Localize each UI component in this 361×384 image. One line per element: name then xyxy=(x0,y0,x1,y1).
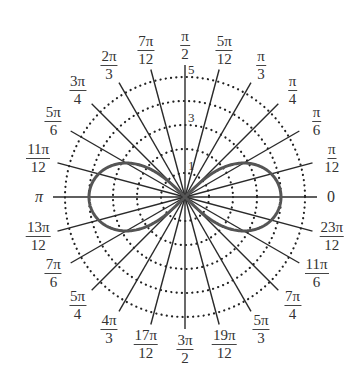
spoke-255 xyxy=(151,197,185,325)
fraction: 5π12 xyxy=(216,34,233,67)
angle-label-225: 5π4 xyxy=(69,288,86,322)
radial-tick-label: 1 xyxy=(188,158,195,174)
numerator: 11π xyxy=(305,257,329,274)
spoke-75 xyxy=(185,70,219,198)
numerator: π xyxy=(312,105,322,122)
numerator: 5π xyxy=(69,289,86,306)
fraction: π12 xyxy=(324,142,339,175)
denominator: 12 xyxy=(324,237,339,253)
numerator: 4π xyxy=(100,313,117,330)
numerator: π xyxy=(180,29,190,46)
fraction: 4π3 xyxy=(100,313,117,346)
fraction: π6 xyxy=(312,105,322,138)
angle-label-240: 4π3 xyxy=(100,312,117,346)
denominator: 12 xyxy=(324,159,339,175)
denominator: 2 xyxy=(181,46,189,62)
denominator: 4 xyxy=(289,306,297,322)
angle-label-150: 5π6 xyxy=(45,104,62,138)
denominator: 6 xyxy=(50,274,58,290)
numerator: 17π xyxy=(133,328,158,345)
numerator: 11π xyxy=(26,142,50,159)
angle-label-285: 19π12 xyxy=(212,327,237,361)
numerator: 7π xyxy=(284,289,301,306)
numerator: 7π xyxy=(137,34,154,51)
fraction: 17π12 xyxy=(133,328,158,361)
radial-tick-label: 5 xyxy=(188,62,195,78)
fraction: π3 xyxy=(256,49,266,82)
angle-label-300: 5π3 xyxy=(252,312,269,346)
spoke-120 xyxy=(119,83,185,197)
angle-label-45: π4 xyxy=(288,73,298,107)
fraction: 3π4 xyxy=(69,74,86,107)
angle-label-30: π6 xyxy=(312,104,322,138)
angle-label-0: 0 xyxy=(327,189,335,205)
fraction: 3π2 xyxy=(176,333,193,366)
angle-label-255: 17π12 xyxy=(133,327,158,361)
angle-label-text: 0 xyxy=(327,188,335,205)
spoke-285 xyxy=(185,197,219,325)
numerator: 2π xyxy=(100,49,117,66)
numerator: 7π xyxy=(45,257,62,274)
fraction: 5π3 xyxy=(252,313,269,346)
spoke-105 xyxy=(151,70,185,198)
fraction: 23π12 xyxy=(320,220,345,253)
denominator: 3 xyxy=(257,66,265,82)
denominator: 6 xyxy=(50,122,58,138)
numerator: 23π xyxy=(320,220,345,237)
denominator: 4 xyxy=(74,91,82,107)
angle-label-165: 11π12 xyxy=(26,141,50,175)
denominator: 12 xyxy=(138,51,153,67)
angle-label-135: 3π4 xyxy=(69,73,86,107)
fraction: 11π6 xyxy=(305,257,329,290)
angle-label-195: 13π12 xyxy=(26,219,51,253)
denominator: 3 xyxy=(257,330,265,346)
angle-label-210: 7π6 xyxy=(45,256,62,290)
spoke-300 xyxy=(185,197,251,311)
denominator: 12 xyxy=(31,159,46,175)
angle-label-270: 3π2 xyxy=(176,332,193,366)
numerator: 3π xyxy=(69,74,86,91)
numerator: 3π xyxy=(176,333,193,350)
angle-label-120: 2π3 xyxy=(100,48,117,82)
fraction: 19π12 xyxy=(212,328,237,361)
fraction: 11π12 xyxy=(26,142,50,175)
angle-label-345: 23π12 xyxy=(320,219,345,253)
denominator: 12 xyxy=(31,237,46,253)
fraction: 13π12 xyxy=(26,220,51,253)
spoke-60 xyxy=(185,83,251,197)
denominator: 12 xyxy=(217,345,232,361)
denominator: 12 xyxy=(217,51,232,67)
angle-label-60: π3 xyxy=(256,48,266,82)
denominator: 12 xyxy=(138,345,153,361)
denominator: 6 xyxy=(313,274,321,290)
denominator: 2 xyxy=(181,350,189,366)
numerator: 5π xyxy=(216,34,233,51)
angle-label-330: 11π6 xyxy=(305,256,329,290)
numerator: π xyxy=(256,49,266,66)
denominator: 6 xyxy=(313,122,321,138)
angle-label-315: 7π4 xyxy=(284,288,301,322)
radial-tick-label: 3 xyxy=(188,110,195,126)
fraction: 7π4 xyxy=(284,289,301,322)
angle-label-105: 7π12 xyxy=(137,33,154,67)
numerator: 5π xyxy=(252,313,269,330)
fraction: 5π4 xyxy=(69,289,86,322)
numerator: π xyxy=(327,142,337,159)
fraction: 7π12 xyxy=(137,34,154,67)
numerator: π xyxy=(288,74,298,91)
denominator: 3 xyxy=(105,66,113,82)
numerator: 13π xyxy=(26,220,51,237)
denominator: 3 xyxy=(105,330,113,346)
angle-label-90: π2 xyxy=(180,28,190,62)
angle-label-180: π xyxy=(35,189,43,205)
angle-label-15: π12 xyxy=(324,141,339,175)
denominator: 4 xyxy=(289,91,297,107)
angle-label-75: 5π12 xyxy=(216,33,233,67)
numerator: 5π xyxy=(45,105,62,122)
denominator: 4 xyxy=(74,306,82,322)
numerator: 19π xyxy=(212,328,237,345)
fraction: 5π6 xyxy=(45,105,62,138)
fraction: π2 xyxy=(180,29,190,62)
fraction: π4 xyxy=(288,74,298,107)
spoke-240 xyxy=(119,197,185,311)
